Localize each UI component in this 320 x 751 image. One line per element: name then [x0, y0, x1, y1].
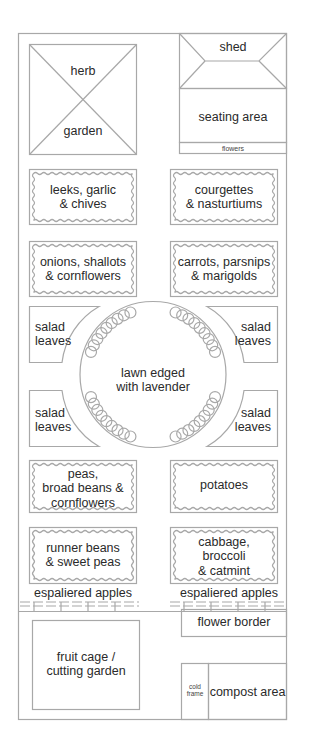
lawn-label: lawn edgedwith lavender: [100, 366, 206, 395]
bed-runner-beans-label: runner beans& sweet peas: [29, 541, 137, 570]
bed-peas-label: peas,broad beans &cornflowers: [29, 467, 137, 510]
salad-bottom-left-label: saladleaves: [35, 406, 71, 435]
bed-carrots-label: carrots, parsnips& marigolds: [170, 255, 278, 284]
espalier-left-label: espaliered apples: [29, 586, 137, 600]
garden-label: garden: [29, 124, 137, 138]
shed-label: shed: [179, 40, 287, 54]
cold-frame-label: coldframe: [181, 683, 209, 698]
compost-label: compost area: [208, 685, 287, 699]
bed-courgettes-label: courgettes& nasturtiums: [170, 183, 278, 212]
flowers-label: flowers: [179, 145, 287, 153]
espalier-apples: [20, 602, 286, 612]
espalier-right-label: espaliered apples: [175, 586, 283, 600]
seating-area-label: seating area: [179, 110, 287, 124]
fruit-cage-label: fruit cage /cutting garden: [32, 650, 140, 679]
salad-top-right-label: saladleaves: [235, 320, 271, 349]
flower-border-label: flower border: [181, 615, 287, 629]
salad-top-left-label: saladleaves: [35, 320, 71, 349]
salad-bottom-right-label: saladleaves: [235, 406, 271, 435]
bed-onions-label: onions, shallots& cornflowers: [29, 255, 137, 284]
bed-potatoes-label: potatoes: [170, 478, 278, 492]
herb-label: herb: [29, 64, 137, 78]
bed-cabbage-label: cabbage,broccoli& catmint: [170, 535, 278, 578]
bed-leeks-label: leeks, garlic& chives: [29, 183, 137, 212]
